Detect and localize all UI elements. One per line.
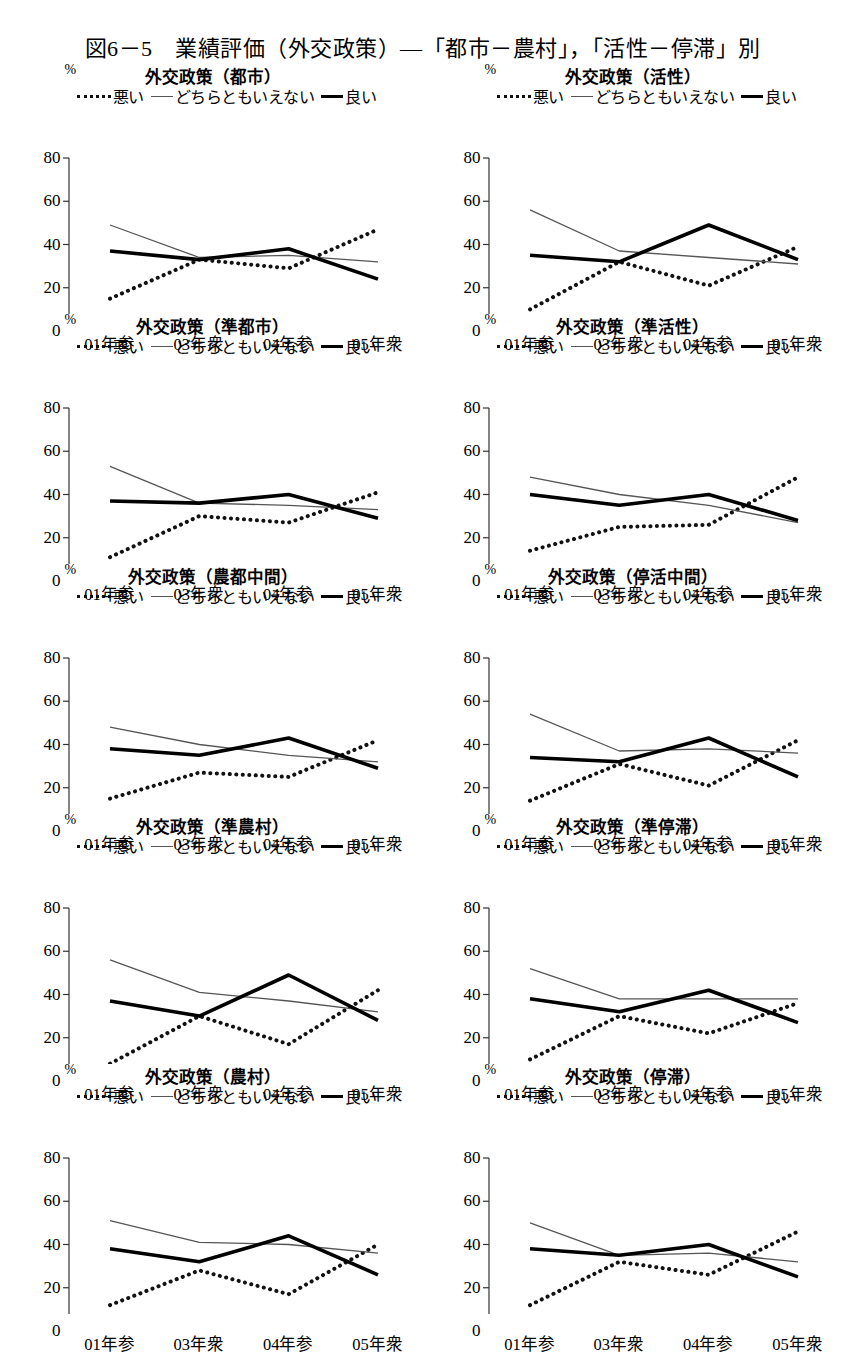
y-axis-tick-label: 40 (449, 1236, 481, 1253)
y-axis-tick-label: 80 (449, 399, 481, 416)
y-axis-tick-label: 60 (449, 192, 481, 209)
y-axis-tick-label: 20 (29, 529, 61, 546)
y-axis-tick-label: 40 (29, 1236, 61, 1253)
chart-panel: 外交政策（準農村）%悪いどちらともいえない良い02040608001年参03年衆… (3, 814, 423, 1064)
y-axis-unit: % (65, 813, 77, 827)
chart-panel: 外交政策（準活性）%悪いどちらともいえない良い02040608001年参03年衆… (423, 314, 843, 564)
series-line (530, 247, 798, 310)
y-axis-tick-label: 80 (29, 899, 61, 916)
series-line (530, 1232, 798, 1306)
y-axis-tick-label: 20 (29, 279, 61, 296)
figure-title: 図6－5 業績評価（外交政策）—「都市－農村」，「活性－停滞」別 (0, 0, 845, 64)
x-axis-tick-label: 05年衆 (338, 1337, 418, 1354)
y-axis-unit: % (485, 563, 497, 577)
y-axis-tick-label: 60 (29, 942, 61, 959)
chart-plot-area (3, 1080, 423, 1314)
y-axis-tick-label: 40 (29, 236, 61, 253)
series-line (530, 225, 798, 262)
y-axis-tick-label: 40 (29, 736, 61, 753)
series-line (530, 477, 798, 551)
y-axis-unit: % (485, 813, 497, 827)
y-axis-tick-label: 40 (29, 986, 61, 1003)
y-axis-unit: % (65, 563, 77, 577)
y-axis-tick-label: 60 (449, 942, 481, 959)
y-axis-tick-label: 20 (449, 1279, 481, 1296)
y-axis-tick-label: 20 (29, 1029, 61, 1046)
y-axis-tick-label: 20 (29, 779, 61, 796)
series-line (110, 495, 378, 519)
y-axis-tick-label: 60 (29, 692, 61, 709)
y-axis-tick-label: 60 (449, 692, 481, 709)
x-axis-tick-label: 03年衆 (579, 1337, 659, 1354)
y-axis-tick-label: 60 (29, 1192, 61, 1209)
chart-plot-area (423, 580, 843, 814)
chart-plot-area (423, 80, 843, 314)
x-axis-tick-label: 03年衆 (159, 1337, 239, 1354)
x-axis-tick-label: 04年参 (668, 1337, 748, 1354)
series-line (110, 738, 378, 768)
series-line (530, 210, 798, 264)
y-axis-tick-label: 80 (449, 649, 481, 666)
y-axis-tick-label: 60 (449, 1192, 481, 1209)
y-axis-unit: % (65, 313, 77, 327)
y-axis-tick-label: 40 (449, 236, 481, 253)
y-axis-tick-label: 60 (29, 192, 61, 209)
chart-panel: 外交政策（活性）%悪いどちらともいえない良い02040608001年参03年衆0… (423, 64, 843, 314)
series-line (530, 1245, 798, 1277)
y-axis-tick-label: 80 (29, 399, 61, 416)
y-axis-tick-label: 80 (449, 1149, 481, 1166)
series-line (110, 740, 378, 798)
y-axis-tick-label: 40 (29, 486, 61, 503)
y-axis-tick-label: 40 (449, 486, 481, 503)
chart-plot-area (3, 80, 423, 314)
y-axis-tick-label: 80 (29, 649, 61, 666)
series-line (530, 969, 798, 999)
chart-panel: 外交政策（停滞）%悪いどちらともいえない良い02040608001年参03年衆0… (423, 1064, 843, 1314)
y-axis-tick-label: 40 (449, 986, 481, 1003)
series-line (530, 1223, 798, 1262)
chart-plot-area (423, 1080, 843, 1314)
series-line (110, 960, 378, 1012)
chart-panel: 外交政策（準都市）%悪いどちらともいえない良い02040608001年参03年衆… (3, 314, 423, 564)
y-axis-tick-label: 80 (29, 1149, 61, 1166)
y-axis-tick-label: 40 (449, 736, 481, 753)
y-axis-tick-label: 0 (449, 1322, 481, 1339)
chart-plot-area (3, 830, 423, 1064)
chart-plot-area (3, 330, 423, 564)
y-axis-tick-label: 20 (29, 1279, 61, 1296)
chart-panel-grid: 外交政策（都市）%悪いどちらともいえない良い02040608001年参03年衆0… (3, 64, 843, 1314)
series-line (530, 495, 798, 521)
chart-panel: 外交政策（都市）%悪いどちらともいえない良い02040608001年参03年衆0… (3, 64, 423, 314)
chart-panel: 外交政策（準停滞）%悪いどちらともいえない良い02040608001年参03年衆… (423, 814, 843, 1064)
chart-plot-area (3, 580, 423, 814)
y-axis-tick-label: 60 (29, 442, 61, 459)
x-axis-tick-label: 04年参 (248, 1337, 328, 1354)
y-axis-unit: % (485, 1063, 497, 1077)
y-axis-tick-label: 0 (29, 1322, 61, 1339)
y-axis-tick-label: 20 (449, 779, 481, 796)
series-line (530, 738, 798, 777)
chart-plot-area (423, 330, 843, 564)
y-axis-tick-label: 20 (449, 1029, 481, 1046)
x-axis-tick-label: 01年参 (490, 1337, 570, 1354)
x-axis-tick-label: 05年衆 (758, 1337, 838, 1354)
chart-plot-area (423, 830, 843, 1064)
y-axis-unit: % (485, 63, 497, 77)
y-axis-tick-label: 80 (449, 149, 481, 166)
y-axis-unit: % (65, 1063, 77, 1077)
chart-panel: 外交政策（農都中間）%悪いどちらともいえない良い02040608001年参03年… (3, 564, 423, 814)
y-axis-tick-label: 60 (449, 442, 481, 459)
x-axis-tick-label: 01年参 (70, 1337, 150, 1354)
y-axis-unit: % (65, 63, 77, 77)
y-axis-tick-label: 80 (449, 899, 481, 916)
series-line (530, 714, 798, 753)
y-axis-tick-label: 20 (449, 529, 481, 546)
y-axis-tick-label: 80 (29, 149, 61, 166)
y-axis-unit: % (485, 313, 497, 327)
chart-panel: 外交政策（農村）%悪いどちらともいえない良い02040608001年参03年衆0… (3, 1064, 423, 1314)
chart-panel: 外交政策（停活中間）%悪いどちらともいえない良い02040608001年参03年… (423, 564, 843, 814)
series-line (530, 1003, 798, 1059)
y-axis-tick-label: 20 (449, 279, 481, 296)
series-line (110, 1236, 378, 1275)
